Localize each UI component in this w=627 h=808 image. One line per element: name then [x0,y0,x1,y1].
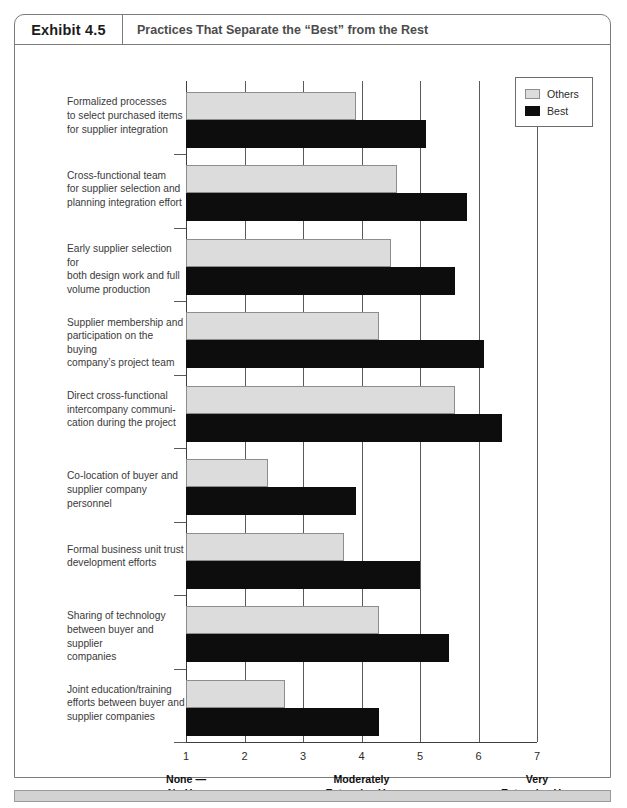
row-separator-tick [174,669,186,670]
bar-best [186,561,420,589]
category-label-line: efforts between buyer and [67,696,185,710]
bar-others [186,606,379,634]
bar-others [186,386,455,414]
bars-container [186,81,537,742]
category-label: Early supplier selection forboth design … [67,242,185,296]
bar-group-row [186,522,537,595]
legend-label: Others [547,88,579,100]
chart-legend: OthersBest [515,77,593,127]
page-title: Practices That Separate the “Best” from … [137,23,428,37]
x-tick-2: 2 [230,750,260,762]
bar-best [186,414,502,442]
bar-group-row [186,595,537,668]
bar-group-row [186,301,537,374]
bar-best [186,267,455,295]
x-tick-3: 3 [288,750,318,762]
exhibit-number: Exhibit 4.5 [31,22,106,38]
bar-best [186,487,356,515]
category-label: Supplier membership andparticipation on … [67,316,185,370]
legend-swatch-best-icon [525,106,540,116]
category-label-line: for supplier selection and [67,182,185,196]
x-tick-5: 5 [405,750,435,762]
x-tick-7: 7 [522,750,552,762]
bar-best [186,708,379,736]
legend-label: Best [547,105,568,117]
category-label-line: participation on the buying [67,329,185,356]
axis-caption-line: Very [462,772,612,786]
category-label-line: Early supplier selection for [67,242,185,269]
category-label: Formalized processesto select purchased … [67,95,185,136]
axis-caption-line: Moderately [287,772,437,786]
gridline-7 [537,81,538,742]
category-label-line: Formal business unit trust [67,543,185,557]
category-label-line: Sharing of technology [67,609,185,623]
category-label-line: to select purchased items [67,109,185,123]
exhibit-number-cell: Exhibit 4.5 [15,15,123,44]
bar-group-row [186,375,537,448]
chart-plot-area: Formalized processesto select purchased … [15,45,610,779]
legend-swatch-others-icon [525,89,540,99]
bar-others [186,459,268,487]
category-label-line: supplier companies [67,710,185,724]
bar-others [186,680,285,708]
category-label-line: company’s project team [67,356,185,370]
x-tick-4: 4 [347,750,377,762]
category-label-line: Direct cross-functional [67,389,185,403]
category-label: Cross-functional teamfor supplier select… [67,169,185,210]
exhibit-title-cell: Practices That Separate the “Best” from … [123,15,610,44]
x-axis-line [186,742,537,743]
bar-group-row [186,228,537,301]
category-label: Sharing of technologybetween buyer and s… [67,609,185,663]
bar-group-row [186,154,537,227]
category-label-line: companies [67,650,185,664]
row-separator-tick [174,154,186,155]
bar-others [186,239,391,267]
row-separator-tick [174,595,186,596]
page-bottom-strip [14,790,611,802]
row-separator-tick [174,742,186,743]
category-label-line: cation during the project [67,416,185,430]
category-label-line: volume production [67,283,185,297]
bar-others [186,165,397,193]
row-separator-tick [174,301,186,302]
bar-others [186,92,356,120]
category-label-line: Co-location of buyer and [67,469,185,483]
category-label-line: Supplier membership and [67,316,185,330]
legend-item-best[interactable]: Best [525,102,584,119]
category-label-line: between buyer and supplier [67,623,185,650]
row-separator-tick [174,375,186,376]
category-label-line: supplier company personnel [67,483,185,510]
bar-group-row [186,81,537,154]
axis-caption-line: None — [111,772,261,786]
legend-item-others[interactable]: Others [525,85,584,102]
bar-best [186,634,449,662]
category-label-line: Formalized processes [67,95,185,109]
category-label-line: Joint education/training [67,683,185,697]
bar-others [186,312,379,340]
row-separator-tick [174,228,186,229]
bar-best [186,193,467,221]
category-label-line: development efforts [67,556,185,570]
bar-best [186,120,426,148]
x-tick-1: 1 [171,750,201,762]
row-separator-tick [174,448,186,449]
category-label: Co-location of buyer andsupplier company… [67,469,185,510]
category-label-line: intercompany communi- [67,403,185,417]
exhibit-header: Exhibit 4.5 Practices That Separate the … [15,15,610,45]
bar-others [186,533,344,561]
category-label-line: Cross-functional team [67,169,185,183]
category-label: Direct cross-functionalintercompany comm… [67,389,185,430]
category-label: Formal business unit trustdevelopment ef… [67,543,185,570]
bar-group-row [186,669,537,742]
bar-group-row [186,448,537,521]
row-separator-tick [174,522,186,523]
category-label: Joint education/trainingefforts between … [67,683,185,724]
category-label-line: both design work and full [67,269,185,283]
category-label-line: for supplier integration [67,123,185,137]
exhibit-frame: Exhibit 4.5 Practices That Separate the … [14,14,611,778]
category-label-line: planning integration effort [67,196,185,210]
bar-best [186,340,484,368]
x-tick-6: 6 [464,750,494,762]
